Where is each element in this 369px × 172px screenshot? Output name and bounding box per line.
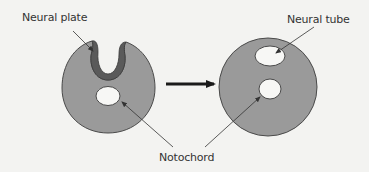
left-notochord	[96, 87, 120, 106]
neural-tube-shape	[255, 46, 285, 66]
neural-plate-label: Neural plate	[22, 12, 87, 23]
diagram-canvas: Neural plate Neural tube Notochord	[0, 0, 369, 172]
right-notochord	[259, 79, 281, 99]
neural-tube-label: Neural tube	[287, 14, 350, 25]
notochord-label: Notochord	[159, 152, 214, 163]
